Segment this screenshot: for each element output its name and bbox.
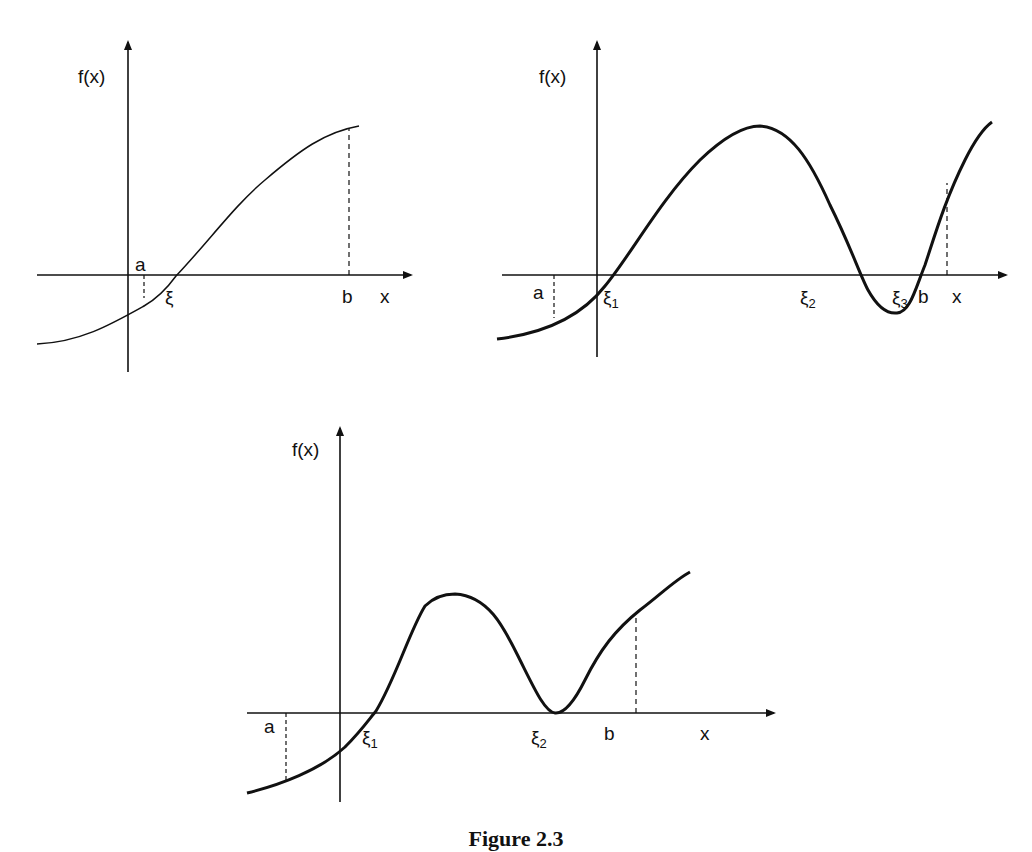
b-label: b [604,724,615,743]
x-axis-label: x [952,287,962,306]
a-label: a [135,255,146,274]
function-curve [247,572,690,793]
root-label: ξ [165,288,174,307]
root-label-3: ξ3 [892,288,908,310]
panel-top-left [37,42,411,372]
panel-bottom [247,428,774,802]
a-label: a [533,283,544,302]
root-label-2: ξ2 [531,728,547,750]
figure-caption: Figure 2.3 [0,826,1032,852]
a-label: a [264,717,275,736]
y-axis-label: f(x) [292,440,319,459]
root-label-2: ξ2 [800,288,816,310]
panel-top-right [497,42,1006,357]
b-label: b [918,287,929,306]
y-axis-label: f(x) [539,67,566,86]
x-axis-label: x [700,724,710,743]
x-axis-label: x [380,287,390,306]
function-curve [37,126,359,344]
b-label: b [342,287,353,306]
y-axis-label: f(x) [78,67,105,86]
root-label-1: ξ1 [362,728,378,750]
root-label-1: ξ1 [603,288,619,310]
